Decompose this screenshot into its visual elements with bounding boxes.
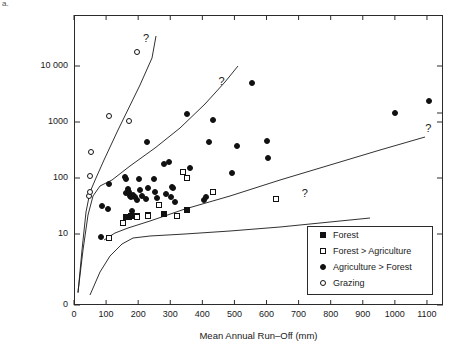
- data-point: [126, 118, 132, 124]
- uncertainty-question-mark: ?: [143, 33, 149, 44]
- data-point: [143, 196, 149, 202]
- data-point: [134, 49, 140, 55]
- y-tick-label: 10: [10, 228, 68, 238]
- legend-item-forest-agriculture[interactable]: Forest > Agriculture: [308, 243, 432, 259]
- envelope-curve-2: [104, 137, 425, 240]
- data-point: [98, 234, 104, 240]
- legend-item-grazing[interactable]: Grazing: [308, 275, 432, 291]
- data-point: [180, 169, 186, 175]
- legend-open-circle-icon: [316, 280, 330, 286]
- data-point: [184, 207, 190, 213]
- envelope-curve-1: [78, 66, 238, 292]
- data-point: [156, 202, 162, 208]
- data-point: [88, 149, 94, 155]
- envelope-curve-0: [78, 36, 156, 293]
- data-point: [229, 170, 235, 176]
- data-point: [106, 235, 112, 241]
- uncertainty-question-mark: ?: [302, 188, 308, 199]
- data-point: [161, 211, 167, 217]
- data-point: [120, 220, 126, 226]
- data-point: [426, 98, 432, 104]
- data-point: [87, 189, 93, 195]
- legend-item-label: Agriculture > Forest: [333, 262, 412, 272]
- data-point: [210, 189, 216, 195]
- data-point: [154, 195, 160, 201]
- data-point: [129, 208, 135, 214]
- legend-open-square-icon: [316, 248, 330, 254]
- figure-container: a. Sediment Yield (t/km2/year) Mean Annu…: [0, 0, 459, 357]
- legend-item-label: Forest > Agriculture: [333, 246, 411, 256]
- data-point: [273, 196, 279, 202]
- data-point: [184, 175, 190, 181]
- legend-item-label: Forest: [333, 230, 359, 240]
- y-tick-label: 100: [10, 172, 68, 182]
- x-tick-label: 1100: [407, 309, 447, 319]
- data-point: [105, 206, 111, 212]
- data-point: [210, 117, 216, 123]
- data-point: [187, 165, 193, 171]
- legend-item-label: Grazing: [333, 278, 365, 288]
- y-tick-label: 0: [10, 299, 68, 309]
- legend-item-agriculture-forest[interactable]: Agriculture > Forest: [308, 259, 432, 275]
- chart-legend: ForestForest > AgricultureAgriculture > …: [307, 226, 433, 295]
- legend-filled-circle-icon: [316, 264, 330, 270]
- data-point: [145, 213, 151, 219]
- data-point: [184, 111, 190, 117]
- data-point: [172, 199, 178, 205]
- legend-item-forest[interactable]: Forest: [308, 227, 432, 243]
- uncertainty-question-mark: ?: [218, 76, 224, 87]
- uncertainty-question-mark: ?: [425, 123, 431, 134]
- data-point: [174, 213, 180, 219]
- legend-filled-square-icon: [316, 232, 330, 238]
- data-point: [123, 176, 129, 182]
- data-point: [264, 138, 270, 144]
- data-point: [151, 176, 157, 182]
- chart-vector-layer: [0, 0, 459, 357]
- data-point: [206, 139, 212, 145]
- y-tick-label: 1000: [10, 116, 68, 126]
- data-point: [234, 143, 240, 149]
- data-point: [134, 214, 140, 220]
- y-tick-label: 10 000: [10, 60, 68, 70]
